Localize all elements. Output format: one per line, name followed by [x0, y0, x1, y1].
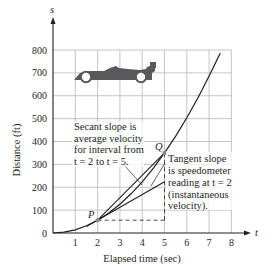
x-tick-label: 4 [140, 237, 145, 248]
y-tick-label: 700 [32, 67, 47, 78]
y-tick-label: 500 [32, 113, 47, 124]
tangent-text-line: Tangent slope [168, 153, 227, 164]
y-tick-labels: 0100200300400500600700800 [32, 45, 47, 239]
secant-annotation: Secant slope is average velocity for int… [72, 121, 144, 167]
x-tick-labels: 12345678 [73, 237, 234, 248]
y-axis-title: Distance (ft) [11, 123, 23, 176]
secant-text-line: t = 2 to t = 5. [74, 156, 129, 167]
distance-time-chart: 12345678 0100200300400500600700800 s t E… [0, 0, 273, 279]
y-tick-label: 0 [42, 228, 47, 239]
secant-text-line: average velocity [74, 133, 144, 144]
x-tick-label: 8 [229, 237, 234, 248]
y-axis-arrow-icon [51, 17, 56, 24]
y-tick-label: 800 [32, 45, 47, 56]
x-tick-label: 6 [184, 237, 189, 248]
y-tick-label: 100 [32, 205, 47, 216]
race-car-icon [74, 62, 156, 82]
tangent-text-line: is speedometer [168, 165, 231, 176]
x-tick-label: 1 [73, 237, 78, 248]
secant-leader-line [125, 166, 142, 185]
y-tick-label: 600 [32, 90, 47, 101]
x-axis-title: Elapsed time (sec) [103, 253, 181, 265]
y-tick-label: 200 [32, 182, 47, 193]
s-axis-label: s [50, 4, 54, 15]
point-q-label: Q [155, 141, 163, 152]
x-tick-label: 2 [95, 237, 100, 248]
tangent-annotation: Tangent slope is speedometer reading at … [166, 152, 241, 212]
y-tick-label: 400 [32, 136, 47, 147]
tangent-text-line: reading at t = 2 [168, 177, 232, 188]
x-tick-label: 7 [207, 237, 212, 248]
point-p-label: P [87, 209, 95, 220]
x-tick-label: 5 [162, 237, 167, 248]
x-tick-label: 3 [117, 237, 122, 248]
t-axis-label: t [255, 227, 259, 238]
x-axis-arrow-icon [244, 231, 251, 236]
y-tick-label: 300 [32, 159, 47, 170]
secant-text-line: Secant slope is [74, 121, 136, 132]
secant-text-line: for interval from [74, 144, 144, 155]
point-p [95, 218, 99, 222]
tangent-text-line: velocity). [168, 200, 208, 212]
